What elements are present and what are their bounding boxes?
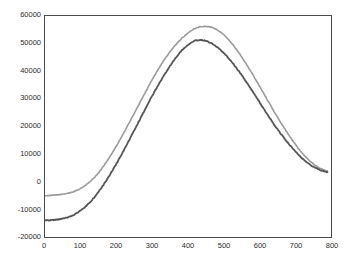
x-tick-label-700: 700: [281, 241, 311, 250]
x-tick-label-100: 100: [65, 241, 95, 250]
y-tick-label-20000: 20000: [20, 122, 41, 130]
y-tick-label-neg20000: -20000: [18, 233, 41, 241]
y-tick-label-0: 0: [37, 178, 41, 186]
x-tick-label-500: 500: [209, 241, 239, 250]
x-tick-label-0: 0: [29, 241, 59, 250]
x-tick-label-300: 300: [137, 241, 167, 250]
chart-figure: 60000 50000 40000 30000 20000 10000 0 -1…: [0, 0, 347, 260]
x-tick-label-800: 800: [317, 241, 347, 250]
series-canvas: [45, 16, 331, 237]
y-tick-label-50000: 50000: [20, 39, 41, 47]
x-tick-label-200: 200: [101, 241, 131, 250]
plot-area: [44, 15, 332, 238]
series-upper-curve: [45, 26, 327, 196]
x-tick-label-600: 600: [245, 241, 275, 250]
y-tick-label-60000: 60000: [20, 11, 41, 19]
y-tick-label-40000: 40000: [20, 67, 41, 75]
x-tick-label-400: 400: [173, 241, 203, 250]
y-tick-label-neg10000: -10000: [18, 206, 41, 214]
y-tick-label-30000: 30000: [20, 94, 41, 102]
y-tick-label-10000: 10000: [20, 150, 41, 158]
